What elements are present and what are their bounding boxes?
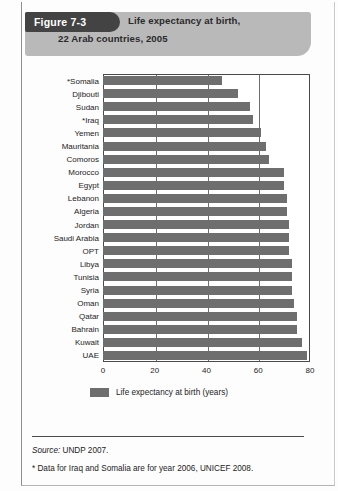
bar	[103, 299, 294, 308]
bars-layer	[103, 74, 310, 362]
bar	[103, 128, 261, 137]
category-label: *Iraq	[82, 116, 99, 125]
bar	[103, 312, 297, 321]
bar	[103, 259, 292, 268]
bar	[103, 338, 302, 347]
chart-area: *SomaliaDjiboutiSudan*IraqYemenMauritani…	[28, 70, 313, 400]
bar	[103, 102, 250, 111]
category-label: Libya	[80, 260, 99, 269]
bar	[103, 220, 289, 229]
bar	[103, 89, 238, 98]
category-label: OPT	[83, 247, 99, 256]
bar	[103, 207, 287, 216]
notes-divider	[32, 436, 304, 437]
figure-container: Figure 7-3 Life expectancy at birth, 22 …	[0, 0, 338, 491]
bar	[103, 272, 292, 281]
bar	[103, 246, 289, 255]
legend-label: Life expectancy at birth (years)	[116, 388, 228, 397]
bar	[103, 286, 292, 295]
bar	[103, 168, 284, 177]
category-label: Algeria	[74, 207, 99, 216]
legend-swatch-life-expectancy	[90, 388, 109, 397]
bar	[103, 325, 297, 334]
bar	[103, 194, 287, 203]
source-note: Source: UNDP 2007.	[32, 446, 108, 455]
footnote: * Data for Iraq and Somalia are for year…	[32, 464, 253, 473]
source-value: UNDP 2007.	[63, 446, 109, 455]
bar	[103, 181, 284, 190]
figure-title-line-1: Life expectancy at birth,	[128, 15, 240, 26]
category-label: Qatar	[79, 312, 99, 321]
category-label: Morocco	[68, 168, 99, 177]
category-label: UAE	[83, 351, 99, 360]
category-axis-labels: *SomaliaDjiboutiSudan*IraqYemenMauritani…	[28, 74, 99, 362]
x-tick-label: 80	[296, 366, 324, 375]
figure-title-line-2: 22 Arab countries, 2005	[58, 33, 168, 44]
source-label: Source:	[32, 446, 60, 455]
x-tick-label: 60	[244, 366, 272, 375]
bar	[103, 115, 253, 124]
category-label: Sudan	[76, 103, 99, 112]
bar	[103, 76, 222, 85]
category-label: Jordan	[75, 221, 99, 230]
bar	[103, 351, 307, 360]
x-tick-label: 40	[193, 366, 221, 375]
value-axis-ticks: 020406080	[103, 366, 310, 380]
category-label: Bahrain	[71, 325, 99, 334]
category-label: Mauritania	[62, 142, 99, 151]
category-label: Oman	[77, 299, 99, 308]
x-tick-label: 0	[89, 366, 117, 375]
figure-number-tag: Figure 7-3	[25, 12, 120, 32]
chart-legend: Life expectancy at birth (years)	[90, 388, 228, 397]
category-label: Kuwait	[75, 338, 99, 347]
bar	[103, 142, 266, 151]
category-label: Tunisia	[74, 273, 100, 282]
category-label: Comoros	[67, 155, 99, 164]
bar	[103, 233, 289, 242]
x-tick-label: 20	[141, 366, 169, 375]
bar	[103, 155, 269, 164]
category-label: Egypt	[79, 181, 99, 190]
category-label: Djibouti	[72, 90, 99, 99]
category-label: Saudi Arabia	[54, 234, 99, 243]
category-label: *Somalia	[67, 77, 99, 86]
category-label: Lebanon	[68, 194, 99, 203]
category-label: Yemen	[74, 129, 99, 138]
category-label: Syria	[81, 286, 99, 295]
